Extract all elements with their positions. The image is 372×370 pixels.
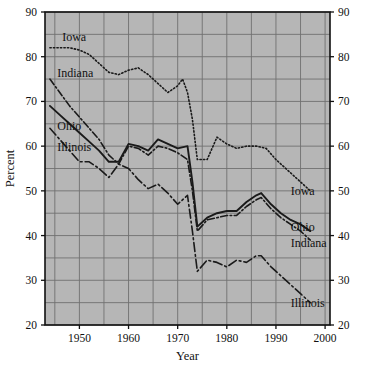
y-tick-label-left: 50 — [26, 185, 38, 197]
y-tick-label-left: 30 — [26, 274, 38, 286]
series-label-ohio: Ohio — [291, 220, 315, 234]
series-label-illinois: Illinois — [57, 140, 91, 154]
y-tick-label-right: 40 — [338, 230, 350, 242]
y-axis-title: Percent — [3, 149, 17, 187]
y-tick-label-left: 20 — [26, 319, 38, 331]
chart-container: IowaIndianaOhioIllinoisIowaOhioIndianaIl… — [0, 0, 372, 370]
series-label-iowa: Iowa — [291, 184, 316, 198]
x-tick-label: 1950 — [68, 332, 91, 344]
series-label-ohio: Ohio — [57, 119, 81, 133]
y-tick-label-right: 60 — [338, 140, 350, 152]
series-label-iowa: Iowa — [62, 30, 87, 44]
y-tick-label-left: 90 — [26, 6, 38, 18]
y-tick-label-right: 50 — [338, 185, 350, 197]
y-tick-label-left: 40 — [26, 230, 38, 242]
series-label-indiana: Indiana — [57, 66, 94, 80]
line-chart: IowaIndianaOhioIllinoisIowaOhioIndianaIl… — [0, 0, 372, 370]
y-tick-label-right: 90 — [338, 6, 350, 18]
x-tick-label: 1960 — [117, 332, 140, 344]
x-tick-label: 1980 — [215, 332, 238, 344]
x-axis: 195019601970198019902000 — [68, 325, 337, 344]
y-tick-label-right: 30 — [338, 274, 350, 286]
y-tick-label-left: 80 — [26, 51, 38, 63]
y-tick-label-right: 20 — [338, 319, 350, 331]
x-tick-label: 1970 — [166, 332, 189, 344]
x-tick-label: 1990 — [264, 332, 287, 344]
series-label-illinois: Illinois — [291, 296, 325, 310]
series-label-indiana: Indiana — [291, 236, 328, 250]
x-tick-label: 2000 — [314, 332, 337, 344]
y-tick-label-left: 70 — [26, 95, 38, 107]
y-tick-label-left: 60 — [26, 140, 38, 152]
x-axis-title: Year — [176, 349, 200, 363]
y-tick-label-right: 70 — [338, 95, 350, 107]
y-tick-label-right: 80 — [338, 51, 350, 63]
